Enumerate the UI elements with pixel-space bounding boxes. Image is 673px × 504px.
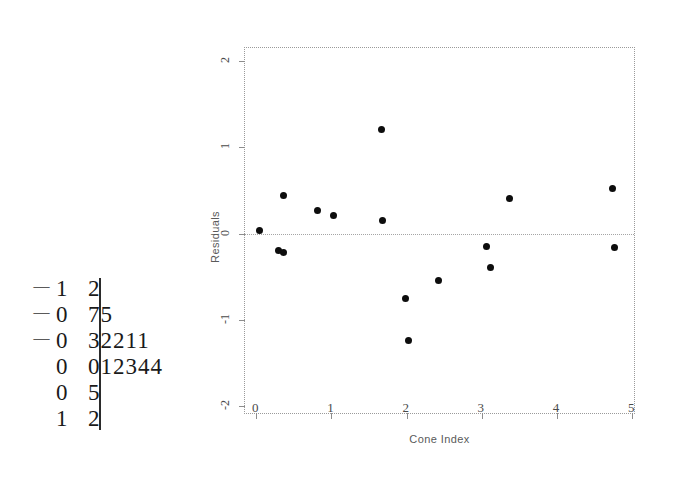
data-point bbox=[280, 249, 287, 256]
y-tick-label: 2 bbox=[218, 51, 233, 69]
leaf-values: 2 bbox=[74, 406, 101, 432]
y-axis-title: Residuals bbox=[209, 202, 221, 272]
leaf-values: 012344 bbox=[74, 354, 163, 380]
data-point bbox=[256, 227, 263, 234]
leaf-values: 5 bbox=[74, 380, 101, 406]
stem-and-leaf-plot: — 1 2 — 0 75 — 0 32211 0 012344 0 5 1 2 bbox=[28, 276, 198, 436]
data-point bbox=[314, 207, 321, 214]
zero-reference-line bbox=[245, 234, 634, 235]
data-point bbox=[405, 337, 412, 344]
data-point bbox=[402, 295, 409, 302]
stem-sign: — bbox=[28, 307, 50, 317]
data-point bbox=[611, 244, 618, 251]
y-tick-label: -2 bbox=[218, 396, 233, 414]
stem-value: 1 bbox=[50, 276, 74, 302]
leaf-values: 75 bbox=[74, 302, 113, 328]
leaf-values: 2 bbox=[74, 276, 101, 302]
stem-leaf-row: 0 5 bbox=[28, 380, 198, 406]
stem-value: 0 bbox=[50, 328, 74, 354]
data-point bbox=[506, 195, 513, 202]
y-tick-mark bbox=[239, 147, 245, 148]
data-point bbox=[280, 192, 287, 199]
data-point bbox=[483, 243, 490, 250]
y-tick-mark bbox=[239, 61, 245, 62]
y-tick-mark bbox=[239, 406, 245, 407]
x-tick-label: 1 bbox=[327, 400, 334, 416]
x-tick-label: 5 bbox=[628, 400, 635, 416]
y-tick-mark bbox=[239, 320, 245, 321]
plot-area bbox=[244, 47, 635, 414]
stem-sign: — bbox=[28, 281, 50, 291]
stem-leaf-divider bbox=[99, 278, 101, 430]
data-point bbox=[379, 217, 386, 224]
stem-leaf-row: — 0 75 bbox=[28, 302, 198, 328]
x-tick-label: 0 bbox=[252, 400, 259, 416]
x-tick-label: 4 bbox=[553, 400, 560, 416]
leaf-values: 32211 bbox=[74, 328, 150, 354]
stem-value: 0 bbox=[50, 354, 74, 380]
x-tick-label: 2 bbox=[402, 400, 409, 416]
y-tick-mark bbox=[239, 234, 245, 235]
x-axis-title: Cone Index bbox=[244, 433, 635, 445]
stem-leaf-row: — 0 32211 bbox=[28, 328, 198, 354]
data-point bbox=[330, 212, 337, 219]
stem-value: 0 bbox=[50, 380, 74, 406]
y-tick-label: -1 bbox=[218, 310, 233, 328]
x-tick-label: 3 bbox=[478, 400, 485, 416]
stem-sign: — bbox=[28, 333, 50, 343]
stem-value: 1 bbox=[50, 406, 74, 432]
stem-leaf-row: — 1 2 bbox=[28, 276, 198, 302]
data-point bbox=[487, 264, 494, 271]
data-point bbox=[378, 126, 385, 133]
stem-value: 0 bbox=[50, 302, 74, 328]
data-point bbox=[609, 185, 616, 192]
stem-leaf-row: 0 012344 bbox=[28, 354, 198, 380]
residual-scatter-plot: 012345 210-1-2 Cone Index Residuals bbox=[186, 28, 656, 488]
data-point bbox=[435, 277, 442, 284]
stem-leaf-row: 1 2 bbox=[28, 406, 198, 432]
y-tick-label: 1 bbox=[218, 137, 233, 155]
